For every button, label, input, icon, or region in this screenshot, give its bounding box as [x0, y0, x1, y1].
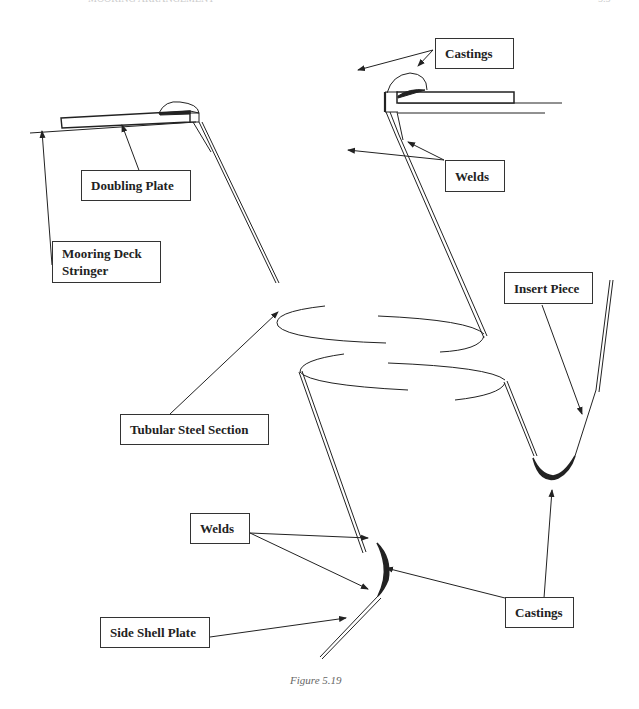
label-doubling-plate: Doubling Plate [81, 170, 191, 201]
label-insert-piece: Insert Piece [504, 272, 593, 304]
label-castings-bottom: Castings [505, 597, 574, 628]
lower-right-insert [504, 280, 613, 479]
label-side-shell-plate: Side Shell Plate [100, 617, 210, 648]
tubular-ellipse-lower [300, 354, 505, 400]
label-welds-bottom: Welds [190, 513, 250, 544]
label-castings-top: Castings [435, 38, 514, 69]
label-tubular-steel-section: Tubular Steel Section [120, 414, 269, 445]
label-welds-top: Welds [445, 160, 505, 192]
lower-left-shell [299, 371, 389, 659]
label-mooring-deck-stringer: Mooring Deck Stringer [52, 241, 161, 283]
diagram-canvas: MOORING ARRANGEMENT 5.5 [0, 0, 639, 709]
leader-arrows [42, 50, 582, 637]
figure-caption: Figure 5.19 [290, 674, 342, 686]
label-mooring-deck-stringer-line1: Mooring Deck [62, 245, 142, 262]
label-mooring-deck-stringer-line2: Stringer [62, 262, 108, 279]
tubular-ellipse-upper [277, 306, 484, 352]
